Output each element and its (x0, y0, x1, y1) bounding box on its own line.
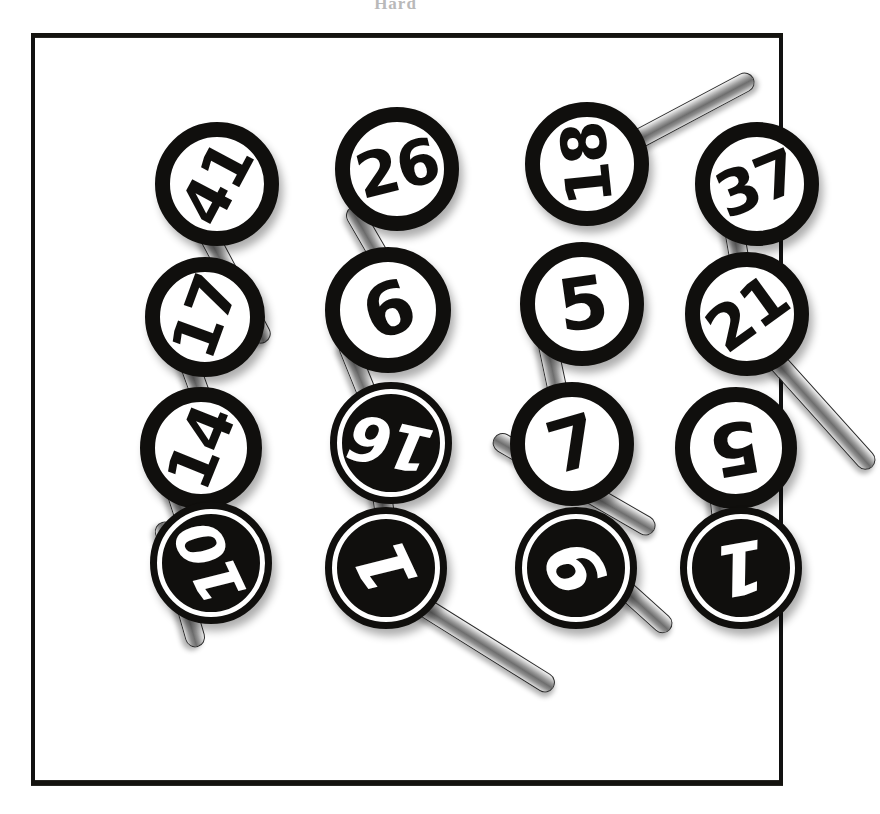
paddle-number: 16 (344, 404, 437, 482)
paddle-number: 18 (552, 120, 622, 208)
illustration-frame: 4117141026616118579372151 (31, 33, 783, 785)
paddle-disc[interactable]: 17 (145, 257, 265, 377)
paddle-disc[interactable]: 16 (330, 382, 452, 504)
paddle-number: 5 (553, 265, 611, 343)
paddle-disc[interactable]: 1 (325, 507, 447, 629)
paddle-disc[interactable]: 18 (525, 102, 649, 226)
paddle-disc[interactable]: 7 (510, 382, 634, 506)
paddle-disc[interactable]: 5 (520, 242, 644, 366)
paddle-disc[interactable]: 1 (680, 507, 802, 629)
paddle-number: 9 (533, 530, 619, 606)
paddle-disc[interactable]: 6 (325, 247, 451, 373)
paddle-number: 26 (350, 129, 445, 209)
paddle-number: 1 (711, 528, 771, 607)
paddle-number: 21 (695, 265, 798, 364)
paddle-number: 10 (166, 513, 257, 614)
paddle-disc[interactable]: 21 (685, 252, 809, 376)
paddle-number: 6 (353, 268, 423, 352)
paddle-number: 17 (162, 268, 248, 367)
paddle-scene: 4117141026616118579372151 (35, 37, 787, 789)
paddle-disc[interactable]: 41 (155, 122, 279, 246)
paddle-number: 7 (539, 403, 605, 485)
paddle-number: 41 (170, 133, 263, 235)
paddle-disc[interactable]: 14 (140, 387, 262, 509)
paddle-number: 5 (706, 408, 766, 487)
paddle-disc[interactable]: 9 (515, 507, 637, 629)
top-caption: Hard (0, 0, 791, 14)
paddle-disc[interactable]: 26 (335, 107, 459, 231)
paddle-number: 14 (157, 398, 245, 498)
paddle-number: 37 (707, 140, 807, 228)
paddle-disc[interactable]: 5 (675, 387, 797, 509)
paddle-number: 1 (343, 531, 429, 605)
paddle-disc[interactable]: 37 (695, 122, 819, 246)
paddle-disc[interactable]: 10 (150, 502, 272, 624)
